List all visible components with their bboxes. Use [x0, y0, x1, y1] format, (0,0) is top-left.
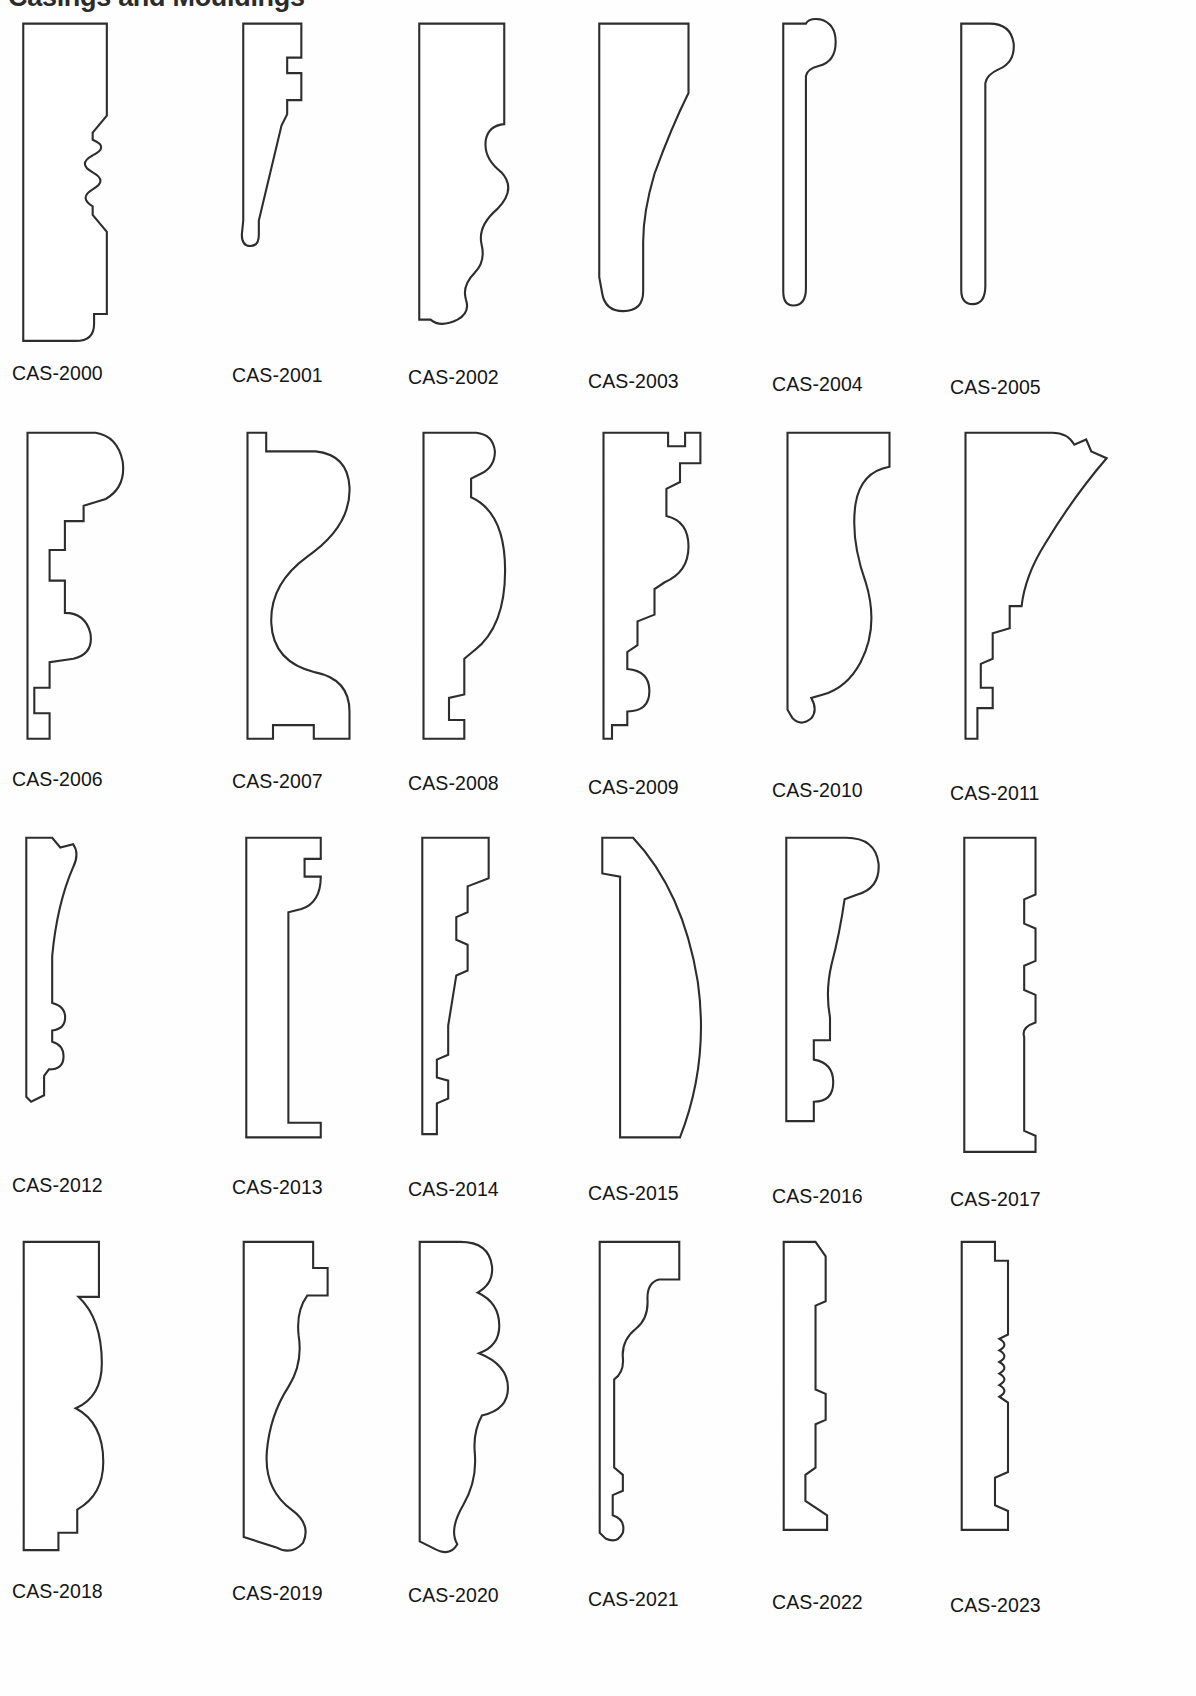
profile-cell[interactable]: CAS-2013 — [222, 820, 418, 1199]
profile-label: CAS-2017 — [940, 1188, 1136, 1211]
profile-outline-22 — [784, 1242, 827, 1530]
profile-cell[interactable]: CAS-2003 — [578, 8, 774, 393]
profile-label: CAS-2023 — [940, 1594, 1136, 1617]
profile-label: CAS-2014 — [398, 1178, 594, 1201]
profile-outline-2 — [419, 24, 508, 324]
profile-outline-18 — [24, 1242, 104, 1550]
profile-label: CAS-2022 — [762, 1591, 958, 1614]
profile-cell[interactable]: CAS-2015 — [578, 820, 774, 1205]
profile-cell[interactable]: CAS-2016 — [762, 820, 958, 1208]
profile-figure — [578, 8, 774, 348]
profile-figure — [2, 8, 198, 348]
profile-outline-4 — [783, 19, 835, 305]
profile-cell[interactable]: CAS-2006 — [2, 414, 198, 791]
profile-figure — [398, 8, 594, 348]
profile-cell[interactable]: CAS-2018 — [2, 1226, 198, 1603]
profile-figure — [578, 820, 774, 1160]
profile-outline-12 — [26, 838, 76, 1102]
profile-row-2: CAS-2006 CAS-2007 CAS-2008 — [0, 414, 1196, 820]
profile-figure — [762, 1226, 958, 1566]
profile-outline-23 — [962, 1242, 1008, 1530]
profile-cell[interactable]: CAS-2009 — [578, 414, 774, 799]
profile-cell[interactable]: CAS-2004 — [762, 8, 958, 396]
profile-figure — [398, 1226, 594, 1566]
profile-cell[interactable]: CAS-2005 — [940, 8, 1136, 399]
profile-row-3: CAS-2012 CAS-2013 CAS-2014 — [0, 820, 1196, 1226]
profile-label: CAS-2008 — [398, 772, 594, 795]
profile-cell[interactable]: CAS-2023 — [940, 1226, 1136, 1617]
profile-label: CAS-2018 — [2, 1580, 198, 1603]
profile-grid: CAS-2000 CAS-2001 CAS-2002 — [0, 8, 1196, 1632]
profile-outline-0 — [23, 24, 107, 341]
profile-figure — [2, 1226, 198, 1566]
profile-label: CAS-2009 — [578, 776, 774, 799]
profile-outline-8 — [424, 433, 506, 739]
profile-label: CAS-2006 — [2, 768, 198, 791]
profile-cell[interactable]: CAS-2020 — [398, 1226, 594, 1607]
profile-label: CAS-2020 — [398, 1584, 594, 1607]
profile-cell[interactable]: CAS-2022 — [762, 1226, 958, 1614]
profile-figure — [2, 414, 198, 754]
profile-cell[interactable]: CAS-2000 — [2, 8, 198, 385]
profile-outline-21 — [600, 1242, 680, 1541]
profile-cell[interactable]: CAS-2007 — [222, 414, 418, 793]
profile-label: CAS-2002 — [398, 366, 594, 389]
profile-figure — [222, 820, 418, 1160]
profile-outline-7 — [248, 433, 350, 739]
profile-figure — [940, 1226, 1136, 1566]
profile-figure — [222, 8, 418, 348]
profile-figure — [940, 820, 1136, 1160]
profile-cell[interactable]: CAS-2012 — [2, 820, 198, 1197]
profile-label: CAS-2016 — [762, 1185, 958, 1208]
profile-label: CAS-2012 — [2, 1174, 198, 1197]
profile-figure — [222, 414, 418, 754]
profile-outline-14 — [422, 838, 488, 1134]
profile-figure — [222, 1226, 418, 1566]
profile-outline-13 — [246, 838, 320, 1138]
profile-outline-10 — [788, 433, 890, 723]
profile-outline-9 — [604, 433, 701, 739]
profile-label: CAS-2011 — [940, 782, 1136, 805]
profile-outline-5 — [961, 24, 1014, 305]
profile-figure — [762, 820, 958, 1160]
profile-label: CAS-2013 — [222, 1176, 418, 1199]
profile-figure — [398, 414, 594, 754]
profile-figure — [578, 414, 774, 754]
profile-outline-6 — [28, 433, 124, 739]
profile-label: CAS-2007 — [222, 770, 418, 793]
profile-cell[interactable]: CAS-2017 — [940, 820, 1136, 1211]
profile-outline-1 — [242, 24, 302, 246]
profile-cell[interactable]: CAS-2001 — [222, 8, 418, 387]
profile-label: CAS-2021 — [578, 1588, 774, 1611]
profile-cell[interactable]: CAS-2002 — [398, 8, 594, 389]
profile-figure — [940, 8, 1136, 348]
profile-label: CAS-2010 — [762, 779, 958, 802]
profile-cell[interactable]: CAS-2021 — [578, 1226, 774, 1611]
profile-cell[interactable]: CAS-2010 — [762, 414, 958, 802]
profile-outline-20 — [420, 1242, 508, 1552]
profile-row-1: CAS-2000 CAS-2001 CAS-2002 — [0, 8, 1196, 414]
profile-figure — [398, 820, 594, 1160]
profile-figure — [762, 414, 958, 754]
profile-figure — [578, 1226, 774, 1566]
profile-outline-16 — [786, 838, 878, 1121]
profile-cell[interactable]: CAS-2008 — [398, 414, 594, 795]
profile-outline-15 — [602, 838, 701, 1138]
profile-label: CAS-2000 — [2, 362, 198, 385]
profile-cell[interactable]: CAS-2014 — [398, 820, 594, 1201]
profile-outline-17 — [964, 838, 1035, 1152]
profile-row-4: CAS-2018 CAS-2019 CAS-2020 — [0, 1226, 1196, 1632]
profile-label: CAS-2001 — [222, 364, 418, 387]
profile-label: CAS-2019 — [222, 1582, 418, 1605]
profile-label: CAS-2005 — [940, 376, 1136, 399]
profile-cell[interactable]: CAS-2011 — [940, 414, 1136, 805]
profile-label: CAS-2015 — [578, 1182, 774, 1205]
profile-label: CAS-2004 — [762, 373, 958, 396]
profile-figure — [762, 8, 958, 348]
profile-outline-11 — [966, 433, 1107, 739]
profile-outline-19 — [244, 1242, 328, 1551]
profile-cell[interactable]: CAS-2019 — [222, 1226, 418, 1605]
profile-label: CAS-2003 — [578, 370, 774, 393]
profile-outline-3 — [599, 24, 688, 312]
profile-figure — [940, 414, 1136, 754]
